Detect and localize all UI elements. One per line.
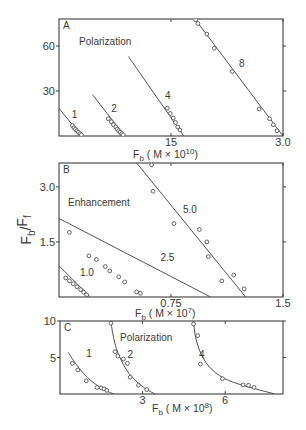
data-point	[165, 106, 169, 110]
y-tick-label: 1.5	[40, 236, 55, 248]
data-point	[87, 254, 91, 258]
data-point	[137, 383, 141, 387]
data-point	[70, 361, 74, 365]
data-point	[168, 112, 172, 116]
x-tick-label: 3.0	[275, 136, 290, 148]
data-point	[84, 379, 88, 383]
x-axis-label: Fb ( M × 108)	[152, 401, 213, 417]
data-point	[172, 222, 176, 226]
fit-curve	[194, 321, 275, 394]
data-point	[128, 375, 132, 379]
data-point	[275, 129, 279, 133]
data-point	[192, 322, 196, 326]
data-point	[121, 357, 125, 361]
series-8	[194, 18, 283, 136]
y-tick-label: 30	[43, 85, 55, 97]
x-tick-label: 1.5	[275, 297, 290, 309]
series-label: 4	[165, 90, 171, 101]
data-point	[76, 368, 80, 372]
data-point	[257, 107, 261, 111]
data-point	[252, 386, 256, 390]
x-tick-label: 3	[140, 394, 146, 406]
series-label: 1.0	[80, 267, 94, 278]
data-point	[105, 388, 109, 392]
data-point	[197, 228, 201, 232]
data-point	[174, 121, 178, 125]
panel-title: Enhancement	[68, 197, 130, 208]
series-label: 2	[127, 349, 133, 360]
x-axis-label: Fb ( M × 107)	[135, 306, 196, 322]
y-tick-label: 10	[44, 315, 56, 327]
data-point	[103, 265, 107, 269]
data-point	[116, 354, 120, 358]
data-point	[194, 18, 198, 22]
data-point	[221, 377, 225, 381]
y-tick-label: 3.0	[40, 181, 55, 193]
y-tick-label: 60	[43, 40, 55, 52]
y-tick-label: 5	[50, 352, 56, 364]
panel-letter: C	[64, 322, 71, 333]
data-point	[106, 117, 110, 121]
series-2.5	[59, 218, 211, 297]
series-label: 1	[72, 109, 78, 120]
series-label: 1	[86, 348, 92, 359]
data-point	[150, 163, 154, 167]
data-point	[68, 230, 72, 234]
x-tick-label: 15	[165, 136, 177, 148]
data-point	[205, 240, 209, 244]
fit-line	[137, 163, 246, 297]
data-point	[126, 361, 130, 365]
data-point	[205, 32, 209, 36]
data-point	[199, 362, 203, 366]
data-point	[123, 280, 127, 284]
series-label: 8	[239, 58, 245, 69]
data-point	[113, 350, 117, 354]
data-point	[117, 275, 121, 279]
data-point	[64, 276, 68, 280]
data-point	[75, 285, 79, 289]
series-label: 4	[199, 349, 205, 360]
data-point	[241, 383, 245, 387]
data-point	[212, 46, 216, 50]
data-point	[220, 279, 224, 283]
panel-title: Polarization	[120, 332, 172, 343]
panel-a: 3060153.0APolarizationFb ( M × 1010)1248	[43, 18, 291, 163]
data-point	[171, 116, 175, 120]
data-point	[109, 321, 113, 325]
data-point	[151, 189, 155, 193]
data-point	[178, 128, 182, 132]
data-point	[145, 388, 149, 392]
data-point	[247, 383, 251, 387]
series-4	[128, 57, 183, 137]
data-point	[135, 290, 139, 294]
data-point	[230, 70, 234, 74]
data-point	[138, 291, 142, 295]
data-point	[108, 269, 112, 273]
x-axis-label: Fb ( M × 1010)	[133, 147, 198, 163]
series-5.0	[137, 163, 246, 297]
series-label: 2	[111, 103, 117, 114]
panel-c: 51036CPolarizationFb ( M × 108)124	[44, 315, 286, 417]
panel-letter: B	[63, 164, 70, 175]
panel-title: Polarization	[79, 36, 131, 47]
data-point	[95, 386, 99, 390]
fit-line	[59, 218, 211, 297]
x-tick-label: 6	[222, 394, 228, 406]
panel-letter: A	[63, 20, 70, 31]
y-axis-label: Fb/Ff	[14, 215, 37, 245]
data-point	[268, 117, 272, 121]
data-point	[196, 22, 200, 26]
data-point	[232, 273, 236, 277]
figure: 3060153.0APolarizationFb ( M × 1010)1248…	[0, 0, 306, 430]
data-point	[271, 123, 275, 127]
data-point	[196, 334, 200, 338]
data-point	[85, 293, 89, 297]
series-label: 2.5	[161, 252, 175, 263]
data-point	[68, 279, 72, 283]
data-point	[206, 255, 210, 259]
series-label: 5.0	[183, 204, 197, 215]
data-point	[242, 287, 246, 291]
data-point	[94, 258, 98, 262]
panel-b: 1.53.00.751.5BEnhancementFb ( M × 107)1.…	[40, 163, 291, 322]
series-2	[93, 95, 126, 137]
